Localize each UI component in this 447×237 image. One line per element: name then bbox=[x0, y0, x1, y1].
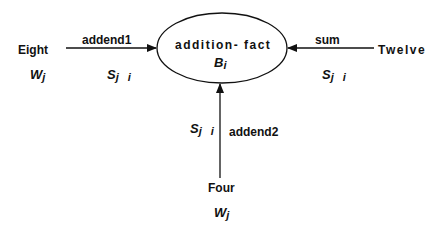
weight-bottom: Wj bbox=[214, 206, 232, 219]
strength-symbol: S bbox=[190, 121, 199, 136]
strength-subscript: j i bbox=[331, 71, 349, 83]
central-node-label: addition- fact bbox=[175, 39, 271, 51]
strength-symbol: S bbox=[322, 67, 331, 82]
weight-subscript: j bbox=[226, 209, 232, 221]
weight-left: Wj bbox=[30, 68, 48, 81]
diagram-canvas bbox=[0, 0, 447, 237]
weight-symbol: W bbox=[30, 67, 42, 82]
link-label-sum: sum bbox=[315, 34, 340, 46]
strength-symbol: S bbox=[107, 67, 116, 82]
link-label-addend1: addend1 bbox=[82, 34, 131, 46]
bias-label: Bi bbox=[214, 56, 229, 69]
weight-subscript: j bbox=[42, 71, 48, 83]
link-label-addend2: addend2 bbox=[229, 126, 278, 138]
strength-subscript: j i bbox=[116, 71, 134, 83]
node-four: Four bbox=[208, 182, 235, 194]
node-twelve: Twelve bbox=[378, 44, 426, 56]
strength-subscript: j i bbox=[199, 125, 217, 137]
bias-symbol: B bbox=[214, 55, 223, 70]
strength-left: Sj i bbox=[107, 68, 134, 81]
strength-right: Sj i bbox=[322, 68, 349, 81]
node-eight: Eight bbox=[18, 44, 48, 56]
strength-bottom: Sj i bbox=[190, 122, 217, 135]
weight-symbol: W bbox=[214, 205, 226, 220]
bias-subscript: i bbox=[223, 59, 229, 71]
